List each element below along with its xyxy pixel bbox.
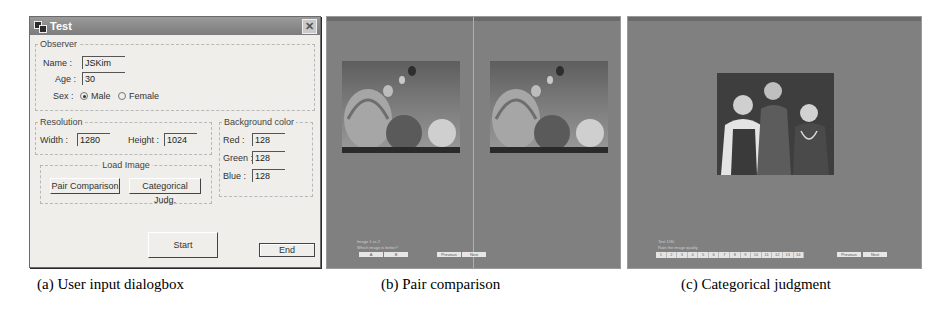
width-field[interactable]: 1280 [77,133,110,146]
blue-label: Blue : [223,171,246,181]
previous-button[interactable]: Previous [837,252,861,257]
height-field[interactable]: 1024 [164,133,197,146]
scale-option[interactable]: 9 [741,252,752,258]
pair-prompt-line2: Which image is better? [357,245,398,250]
observer-legend: Observer [38,39,79,49]
balloon-image-left [342,61,460,153]
observer-group: Observer [35,39,315,111]
screen-divider [473,17,474,268]
pair-comparison-button[interactable]: Pair Comparison [50,178,120,194]
green-field[interactable]: 128 [252,151,285,164]
height-label: Height : [128,135,159,145]
width-label: Width : [40,135,68,145]
previous-button[interactable]: Previous [437,252,461,257]
resolution-legend: Resolution [38,117,85,127]
pair-prompt-line1: Image 1 vs 2 [357,239,380,244]
background-color-legend: Background color [222,117,296,127]
scale-option[interactable]: 8 [730,252,741,258]
green-label: Green : [223,153,253,163]
name-field[interactable]: JSKim [82,56,125,69]
rating-scale[interactable]: 1 2 3 4 5 6 7 8 9 10 11 12 13 14 [656,252,804,258]
age-field[interactable]: 30 [82,72,125,85]
caption-b: (b) Pair comparison [381,276,500,293]
categorical-judgment-screen: Test 1/30 Rate the image quality 1 2 3 4… [627,16,922,269]
close-icon[interactable]: ✕ [302,19,317,34]
scale-option[interactable]: 6 [709,252,720,258]
scale-option[interactable]: 14 [794,252,805,258]
screen-titlebar [628,17,921,21]
scale-option[interactable]: 10 [751,252,762,258]
choice-b-button[interactable]: B [384,252,408,257]
balloon-image-right [490,61,608,153]
blue-field[interactable]: 128 [252,169,285,182]
red-field[interactable]: 128 [252,133,285,146]
user-input-dialog: Test ✕ Observer Name : JSKim Age : 30 Se… [29,16,321,268]
categorical-judgment-button[interactable]: Categorical Judg. [129,178,201,194]
next-button[interactable]: Next [863,252,887,257]
balloon-photo-icon [490,61,608,153]
scale-option[interactable]: 4 [688,252,699,258]
next-button[interactable]: Next [462,252,486,257]
load-image-legend: Load Image [100,160,152,170]
scale-option[interactable]: 1 [656,252,667,258]
dialog-title: Test [50,20,72,32]
people-image [717,73,834,175]
scale-option[interactable]: 13 [783,252,794,258]
sex-radio-male[interactable]: Male [80,91,111,101]
people-photo-icon [717,73,834,175]
radio-unselected-icon [118,92,126,100]
scale-option[interactable]: 3 [677,252,688,258]
caption-c: (c) Categorical judgment [681,276,831,293]
radio-selected-icon [80,92,88,100]
dialog-titlebar: Test ✕ [30,17,320,35]
scale-option[interactable]: 11 [762,252,773,258]
scale-option[interactable]: 5 [698,252,709,258]
scale-option[interactable]: 7 [719,252,730,258]
sex-label: Sex : [53,91,74,101]
end-button[interactable]: End [259,243,315,257]
balloon-photo-icon [342,61,460,153]
categorical-prompt-line1: Test 1/30 [658,239,674,244]
pair-comparison-screen: Image 1 vs 2 Which image is better? A B … [326,16,621,269]
start-button[interactable]: Start [148,232,218,258]
red-label: Red : [223,135,245,145]
age-label: Age : [55,74,76,84]
categorical-prompt-line2: Rate the image quality [658,245,698,250]
sex-radio-female[interactable]: Female [118,91,159,101]
caption-a: (a) User input dialogbox [37,276,184,293]
scale-option[interactable]: 12 [772,252,783,258]
scale-option[interactable]: 2 [667,252,678,258]
choice-a-button[interactable]: A [359,252,383,257]
name-label: Name : [43,58,72,68]
app-icon [34,21,46,32]
